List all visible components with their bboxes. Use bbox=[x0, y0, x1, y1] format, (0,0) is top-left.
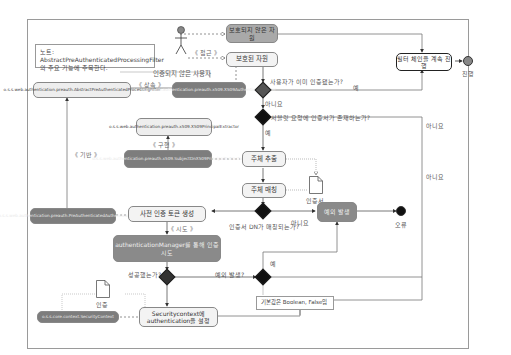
proceed-endpoint-icon bbox=[463, 56, 473, 66]
default-value-note: 기본값은 Boolean, False임 bbox=[256, 296, 334, 310]
yes-label-1: 예 bbox=[353, 83, 359, 92]
match-subject-node[interactable]: 주체 매칭 bbox=[242, 183, 286, 198]
attempt-stereotype: 《 시도 》 bbox=[168, 224, 196, 233]
continue-filter-chain-node[interactable]: 필터 체인을 계속 진행 bbox=[396, 53, 452, 71]
security-context-class[interactable]: o.s.s.core.context.SecurityContext bbox=[37, 311, 119, 323]
x509-authentication-filter-class[interactable]: o.s.s.web.authentication.preauth.x509.X5… bbox=[172, 82, 246, 98]
decision-dn-matches-label: 인증서 DN가 매칭되는가? bbox=[229, 222, 299, 231]
set-authentication-node[interactable]: Securitycontext에 authentication을 설정 bbox=[139, 307, 218, 327]
auth-manager-attempt-node[interactable]: authenticationManager를 통해 인증 시도 bbox=[113, 235, 221, 262]
actor-icon bbox=[174, 26, 188, 56]
extract-subject-node[interactable]: 주체 추출 bbox=[242, 151, 286, 167]
no-label-4: 아니요 bbox=[291, 218, 309, 227]
yes-label-2: 예 bbox=[265, 128, 271, 137]
authentication-label: 인증 bbox=[96, 300, 108, 309]
exception-raised-node[interactable]: 예외 발생 bbox=[317, 202, 357, 222]
access-stereotype: 《 접근 》 bbox=[192, 48, 220, 57]
decision-cert-exists-label: 서블릿 요청에 인증서가 존재하는가? bbox=[271, 113, 370, 122]
error-endpoint-icon bbox=[396, 206, 406, 216]
decision-succeeded-label: 성공했는가? bbox=[128, 270, 161, 279]
x509-principal-extractor-class[interactable]: o.s.s.web.authentication.preauth.x509.X5… bbox=[136, 118, 212, 136]
note-box: 노트: AbstractPreAuthenticatedProcessingFi… bbox=[35, 44, 155, 68]
no-label-3: 아니요 bbox=[426, 172, 444, 181]
authentication-document-icon bbox=[96, 280, 110, 298]
abstract-preauth-filter-class[interactable]: o.s.s.web.authentication.preauth.Abstrac… bbox=[33, 82, 131, 98]
error-label: 오류 bbox=[395, 220, 407, 229]
implement-stereotype: 《 구현 》 bbox=[150, 140, 178, 149]
actor-label: 인증되지 않은 사용자 bbox=[153, 68, 211, 78]
preauth-token-class[interactable]: o.s.s.web.authentication.preauth.PreAuth… bbox=[30, 208, 116, 224]
proceed-label: 진행 bbox=[462, 69, 474, 78]
create-preauth-token-node[interactable]: 사전 인증 토큰 생성 bbox=[128, 206, 206, 222]
no-label-2: 아니요 bbox=[426, 121, 444, 130]
subject-dn-extractor-class[interactable]: o.s.s.web.authentication.preauth.x509.Su… bbox=[124, 150, 212, 168]
protected-resource-node[interactable]: 보호된 자원 bbox=[226, 52, 278, 67]
yes-label-3: 예 bbox=[270, 259, 276, 268]
exception-occurred-label: 예외 발생? bbox=[215, 270, 244, 279]
base-stereotype: 《 기반 》 bbox=[72, 150, 100, 159]
decision-already-authenticated-label: 사용자가 이미 인증됐는가? bbox=[270, 77, 343, 86]
certificate-document-icon bbox=[309, 176, 323, 194]
no-label-1: 아니요 bbox=[265, 99, 283, 108]
unprotected-resource-node[interactable]: 보호되지 않은 자원 bbox=[226, 24, 278, 43]
